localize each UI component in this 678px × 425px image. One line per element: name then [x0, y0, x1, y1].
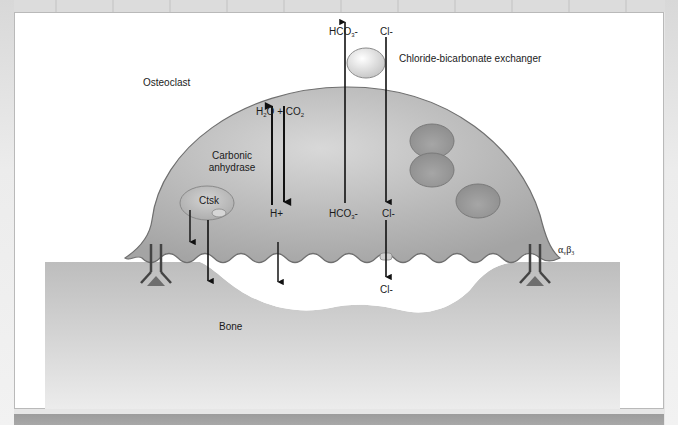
- hco3-inside-label: HCO3-: [329, 208, 358, 220]
- bottom-bar: [14, 414, 664, 425]
- hco3-top-base: HCO: [329, 26, 351, 37]
- ctsk-label: Ctsk: [199, 195, 219, 207]
- reaction-h2o-co2-label: H2O + CO2: [256, 106, 304, 118]
- reaction-o-plus-co: O + CO: [267, 106, 301, 117]
- ctsk-pump-icon: [212, 209, 226, 217]
- cl-bottom-label: Cl-: [380, 284, 393, 296]
- hco3-top-charge: -: [355, 26, 358, 37]
- cl-inside-label: Cl-: [382, 208, 395, 220]
- nucleus-2: [410, 153, 454, 187]
- bone-label: Bone: [219, 321, 242, 333]
- chloride-bicarbonate-exchanger: [347, 48, 385, 78]
- carbonic-anhydrase-label: Carbonic anhydrase: [202, 150, 262, 174]
- osteoclast-label: Osteoclast: [143, 77, 190, 89]
- hco3-inside-charge: -: [355, 208, 358, 219]
- integrin-3: 3: [571, 250, 574, 256]
- hco3-inside-base: HCO: [329, 208, 351, 219]
- carbonic-anhydrase-line1: Carbonic: [202, 150, 262, 162]
- carbonic-anhydrase-line2: anhydrase: [202, 162, 262, 174]
- integrin-alpha-v-beta-3-label: αvβ3: [558, 244, 574, 256]
- h-plus-label: H+: [270, 208, 283, 220]
- reaction-co2-sub: 2: [301, 112, 304, 118]
- cl-top-label: Cl-: [380, 26, 393, 38]
- hco3-top-label: HCO3-: [329, 26, 358, 38]
- nucleus-3: [456, 184, 500, 218]
- exchanger-label: Chloride-bicarbonate exchanger: [399, 53, 541, 65]
